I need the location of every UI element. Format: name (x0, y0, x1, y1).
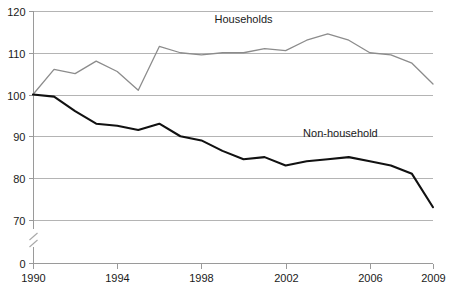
axis-break-stroke-1 (30, 233, 38, 240)
series-line (33, 95, 433, 208)
series-line (33, 34, 433, 95)
y-tick-label: 90 (13, 131, 25, 143)
series-non-household: Non-household (33, 95, 433, 208)
x-axis-ticks: 199019941998200220062009 (21, 264, 445, 285)
axis-break-marker (30, 233, 38, 247)
x-tick-label: 1998 (189, 272, 213, 284)
series-label: Non-household (303, 127, 378, 139)
y-tick-label: 70 (13, 215, 25, 227)
series-label: Households (214, 13, 273, 25)
y-tick-label: 110 (8, 48, 26, 60)
y-tick-label: 120 (7, 6, 25, 18)
chart-canvas: 1201101009080700199019941998200220062009… (0, 0, 450, 287)
x-tick-label: 2006 (358, 272, 382, 284)
x-tick-label: 1990 (21, 272, 45, 284)
y-tick-label: 0 (19, 258, 25, 270)
axis-break-stroke-2 (30, 240, 38, 247)
x-tick-label: 2002 (274, 272, 298, 284)
y-axis-ticks: 1201101009080700 (7, 6, 33, 270)
x-tick-label: 2009 (421, 272, 445, 284)
line-chart: 1201101009080700199019941998200220062009… (0, 0, 450, 287)
gridlines (33, 12, 433, 221)
y-tick-label: 80 (13, 173, 25, 185)
y-tick-label: 100 (7, 90, 25, 102)
x-tick-label: 1994 (105, 272, 129, 284)
